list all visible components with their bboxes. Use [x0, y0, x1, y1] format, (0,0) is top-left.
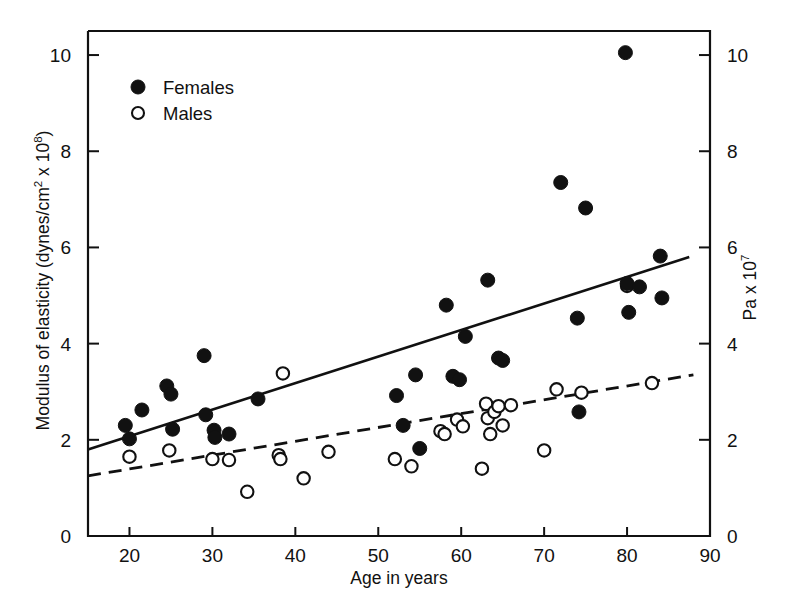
- data-point-female: [453, 373, 467, 387]
- y2-tick-label: 10: [727, 45, 748, 66]
- data-point-male: [438, 428, 450, 440]
- data-point-female: [653, 249, 667, 263]
- data-point-female: [135, 403, 149, 417]
- y-axis-right-title-text: Pa x 10: [740, 261, 760, 320]
- y-axis-left-title-tail: ): [33, 131, 53, 137]
- data-point-male: [496, 419, 508, 431]
- data-point-female: [409, 368, 423, 382]
- data-point-male: [241, 486, 253, 498]
- data-point-female: [396, 418, 410, 432]
- data-point-female: [572, 405, 586, 419]
- data-point-male: [575, 386, 587, 398]
- data-point-female: [118, 418, 132, 432]
- y2-tick-label: 8: [727, 141, 738, 162]
- x-axis-ticks: 2030405060708090: [119, 527, 721, 566]
- x-tick-label: 30: [202, 545, 223, 566]
- y-tick-label: 8: [60, 141, 71, 162]
- data-point-female: [618, 46, 632, 60]
- data-point-female: [251, 392, 265, 406]
- y-tick-label: 4: [60, 334, 71, 355]
- y2-tick-label: 4: [727, 334, 738, 355]
- data-point-male: [322, 446, 334, 458]
- legend: Females Males: [131, 77, 234, 124]
- plot-canvas: 2030405060708090 0246810 0246810 Females…: [0, 0, 799, 609]
- y-tick-label: 6: [60, 237, 71, 258]
- y2-tick-label: 0: [727, 526, 738, 547]
- data-point-male: [163, 444, 175, 456]
- data-point-female: [496, 353, 510, 367]
- y-tick-label: 0: [60, 526, 71, 547]
- data-point-male: [277, 367, 289, 379]
- y-axis-right-title-sup: 7: [739, 255, 751, 261]
- data-point-male: [484, 428, 496, 440]
- x-tick-label: 80: [616, 545, 637, 566]
- legend-marker-females: [131, 80, 145, 94]
- x-tick-label: 50: [368, 545, 389, 566]
- x-tick-label: 20: [119, 545, 140, 566]
- y-axis-left-ticks: 0246810: [50, 45, 99, 547]
- data-point-female: [122, 432, 136, 446]
- trend-line-females: [88, 257, 689, 449]
- x-axis-title: Age in years: [88, 568, 710, 589]
- x-tick-label: 90: [699, 545, 720, 566]
- data-point-female: [390, 389, 404, 403]
- data-point-female: [413, 441, 427, 455]
- data-point-female: [481, 273, 495, 287]
- data-point-male: [206, 453, 218, 465]
- y2-tick-label: 2: [727, 430, 738, 451]
- y-axis-left-title-text: Modulus of elasticity (dynes/cm: [33, 187, 53, 430]
- data-point-female: [579, 201, 593, 215]
- data-point-female: [166, 422, 180, 436]
- y2-tick-label: 6: [727, 237, 738, 258]
- y-tick-label: 2: [60, 430, 71, 451]
- data-point-male: [538, 444, 550, 456]
- data-point-female: [633, 280, 647, 294]
- x-tick-label: 40: [285, 545, 306, 566]
- data-point-male: [405, 460, 417, 472]
- data-point-female: [655, 291, 669, 305]
- legend-label-males: Males: [163, 103, 212, 124]
- data-point-female: [570, 311, 584, 325]
- data-point-male: [550, 383, 562, 395]
- x-tick-label: 60: [451, 545, 472, 566]
- data-point-male: [297, 472, 309, 484]
- y-axis-right-title: Pa x 107: [740, 188, 761, 388]
- data-point-male: [476, 462, 488, 474]
- data-point-male: [389, 453, 401, 465]
- data-point-female: [222, 427, 236, 441]
- data-point-female: [199, 408, 213, 422]
- legend-marker-males: [132, 107, 144, 119]
- figure-scatter-plot: 2030405060708090 0246810 0246810 Females…: [0, 0, 799, 609]
- data-point-male: [223, 454, 235, 466]
- y-tick-label: 10: [50, 45, 71, 66]
- y-axis-left-title: Modulus of elasticity (dynes/cm2 x 108): [33, 71, 54, 491]
- data-point-female: [554, 176, 568, 190]
- data-point-female: [164, 387, 178, 401]
- data-point-female: [622, 305, 636, 319]
- y-axis-left-title-sup2: 8: [32, 136, 44, 142]
- y-axis-left-title-sup1: 2: [32, 181, 44, 187]
- data-point-female: [458, 329, 472, 343]
- data-point-female: [208, 430, 222, 444]
- data-point-male: [123, 450, 135, 462]
- legend-label-females: Females: [163, 77, 234, 98]
- data-point-male: [492, 400, 504, 412]
- data-point-male: [457, 420, 469, 432]
- x-tick-label: 70: [534, 545, 555, 566]
- trend-lines: [88, 257, 693, 476]
- data-point-female: [439, 298, 453, 312]
- data-point-male: [274, 453, 286, 465]
- data-point-male: [646, 377, 658, 389]
- data-point-female: [197, 349, 211, 363]
- data-point-male: [505, 399, 517, 411]
- y-axis-left-title-mid: x 10: [33, 143, 53, 181]
- data-point-female: [620, 277, 634, 291]
